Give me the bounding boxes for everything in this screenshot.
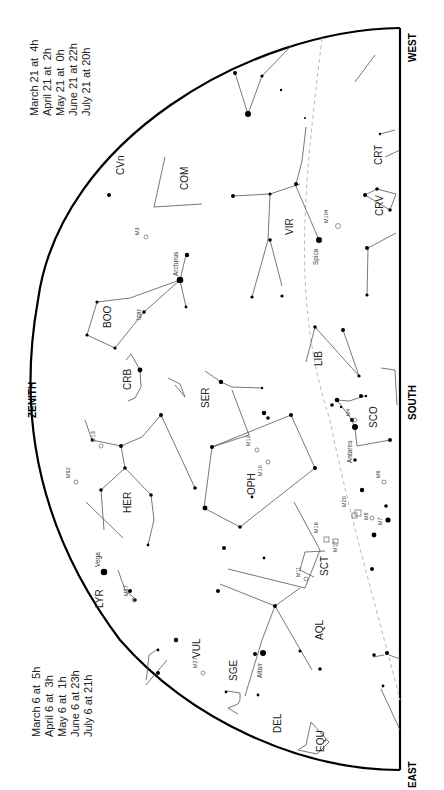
- constellation-sct: SCT: [319, 556, 330, 576]
- messier-m92: M92: [65, 467, 71, 478]
- messier-m12: M12: [245, 435, 251, 446]
- messier-m3: M3: [134, 227, 140, 235]
- messier-m8: M8: [363, 512, 369, 520]
- star-name-labels: Arcturus Izar Spica Antares Vega Altair: [94, 248, 353, 678]
- time-row: June 6 at 23h: [69, 670, 81, 737]
- messier-m7: M7: [377, 517, 383, 525]
- times-west-table: March 21 at 4h April 21 at 2h May 21 at …: [28, 40, 92, 116]
- sky-dome-arc: [31, 28, 400, 770]
- time-row: June 21 at 22h: [67, 43, 79, 116]
- messier-m6: M6: [375, 470, 381, 478]
- messier-m13: M13: [90, 431, 96, 442]
- constellation-del: DEL: [272, 713, 283, 733]
- constellation-cvn: CVn: [115, 156, 126, 175]
- star-altair: Altair: [256, 662, 263, 678]
- messier-objects: [74, 224, 386, 676]
- star-vega: Vega: [94, 552, 102, 567]
- messier-m4: M4: [345, 408, 351, 416]
- time-row: March 21 at 4h: [28, 40, 40, 116]
- time-row: March 6 at 5h: [30, 667, 42, 737]
- direction-zenith: ZENITH: [27, 382, 38, 418]
- messier-m27: M27: [192, 657, 198, 668]
- constellation-lyr: LYR: [94, 589, 105, 608]
- time-row: April 21 at 2h: [41, 48, 53, 116]
- constellation-sco: SCO: [368, 406, 379, 428]
- constellation-vir: VIR: [284, 218, 295, 235]
- messier-m16: M16: [313, 522, 319, 533]
- messier-m11: M11: [295, 567, 301, 577]
- constellation-ser: SER: [200, 387, 211, 408]
- star-arcturus: Arcturus: [172, 251, 179, 276]
- constellation-aql: AQL: [314, 620, 325, 640]
- times-east-table: March 6 at 5h April 6 at 3h May 6 at 1h …: [30, 667, 94, 737]
- time-row: May 21 at 0h: [54, 49, 66, 116]
- messier-m57: M57: [123, 585, 129, 596]
- constellation-com: COM: [179, 167, 190, 190]
- direction-west: WEST: [407, 33, 418, 62]
- time-row: July 6 at 21h: [82, 675, 94, 737]
- constellation-oph: OPH: [246, 473, 257, 495]
- time-row: April 6 at 3h: [43, 675, 55, 737]
- constellation-her: HER: [122, 492, 133, 513]
- star-map: WEST SOUTH EAST ZENITH March 21 at 4h Ap…: [0, 0, 444, 790]
- star-antares: Antares: [346, 440, 353, 463]
- constellation-crt: CRT: [373, 145, 384, 165]
- time-row: July 21 at 20h: [80, 48, 92, 117]
- constellation-lib: LIB: [313, 351, 324, 366]
- constellation-crv: CRV: [374, 195, 385, 216]
- star-izar: Izar: [135, 308, 142, 320]
- messier-m104: M104: [323, 209, 329, 223]
- messier-m10: M10: [257, 465, 263, 476]
- constellation-crb: CRB: [122, 369, 133, 390]
- direction-east: EAST: [407, 761, 418, 788]
- direction-south: SOUTH: [407, 385, 418, 420]
- messier-m17: M17: [332, 541, 338, 552]
- constellation-equ: EQU: [315, 730, 326, 752]
- star-spica: Spica: [312, 248, 320, 265]
- constellation-boo: BOO: [102, 306, 113, 328]
- constellation-lines: [85, 45, 400, 754]
- messier-labels: M3 M104 M13 M92 M12 M10 M4 M6 M7 M8 M20 …: [65, 209, 383, 668]
- constellation-vul: VUL: [191, 638, 202, 658]
- time-row: May 6 at 1h: [56, 676, 68, 737]
- constellation-sge: SGE: [228, 660, 239, 681]
- messier-m20: M20: [341, 496, 347, 507]
